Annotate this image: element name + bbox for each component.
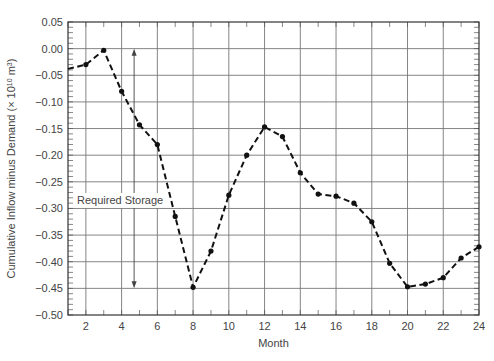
- data-point: [119, 89, 124, 94]
- y-tick-label: −0.05: [35, 69, 63, 81]
- y-tick-label: 0.05: [42, 16, 63, 28]
- y-tick-label: −0.10: [35, 96, 63, 108]
- y-tick-label: 0.00: [42, 43, 63, 55]
- data-point: [333, 194, 338, 199]
- x-tick-label: 24: [473, 320, 485, 332]
- x-tick-label: 22: [437, 320, 449, 332]
- data-point: [173, 214, 178, 219]
- x-tick-label: 10: [223, 320, 235, 332]
- data-point: [262, 124, 267, 129]
- data-point: [405, 284, 410, 289]
- y-tick-label: −0.45: [35, 282, 63, 294]
- x-tick-label: 12: [258, 320, 270, 332]
- data-point: [244, 153, 249, 158]
- x-tick-label: 14: [294, 320, 306, 332]
- y-tick-label: −0.25: [35, 176, 63, 188]
- x-axis-label: Month: [258, 337, 289, 349]
- data-point: [280, 134, 285, 139]
- data-point: [459, 255, 464, 260]
- data-series-line: [68, 50, 479, 287]
- y-tick-label: −0.30: [35, 202, 63, 214]
- data-point: [208, 248, 213, 253]
- minor-ticks: [68, 22, 479, 315]
- data-point: [83, 62, 88, 67]
- y-axis-label-main: Cumulative Inflow minus Demand (× 10: [5, 86, 17, 278]
- y-axis-label-sup: 10: [6, 78, 13, 86]
- plot-frame: [68, 22, 479, 315]
- data-point: [351, 201, 356, 206]
- arrow-down-icon: [132, 281, 137, 288]
- data-point: [476, 244, 481, 249]
- y-axis-label: Cumulative Inflow minus Demand (× 1010 m…: [5, 59, 17, 279]
- x-tick-label: 4: [119, 320, 125, 332]
- x-tick-label: 18: [366, 320, 378, 332]
- y-axis-tick-labels: 0.050.00−0.05−0.10−0.15−0.20−0.25−0.30−0…: [35, 16, 63, 321]
- x-tick-label: 16: [330, 320, 342, 332]
- x-tick-label: 2: [83, 320, 89, 332]
- y-tick-label: −0.50: [35, 309, 63, 321]
- data-point: [190, 285, 195, 290]
- data-point: [226, 193, 231, 198]
- data-point: [137, 122, 142, 127]
- x-tick-label: 6: [154, 320, 160, 332]
- data-point: [298, 170, 303, 175]
- x-axis-tick-labels: 24681012141618202224: [83, 320, 485, 332]
- arrow-up-icon: [132, 49, 137, 56]
- data-point: [387, 261, 392, 266]
- y-axis-label-unit: m: [5, 66, 17, 78]
- y-tick-label: −0.40: [35, 256, 63, 268]
- y-axis-label-close: ): [5, 59, 17, 63]
- y-tick-label: −0.20: [35, 149, 63, 161]
- storage-chart: 0.050.00−0.05−0.10−0.15−0.20−0.25−0.30−0…: [0, 0, 494, 361]
- data-point: [441, 275, 446, 280]
- data-point: [423, 282, 428, 287]
- y-tick-label: −0.15: [35, 123, 63, 135]
- grid-lines: [68, 22, 479, 315]
- data-point: [369, 219, 374, 224]
- data-point: [316, 191, 321, 196]
- x-tick-label: 8: [190, 320, 196, 332]
- required-storage-label: Required Storage: [77, 194, 163, 206]
- data-point-markers: [83, 48, 481, 290]
- data-point: [101, 48, 106, 53]
- x-tick-label: 20: [401, 320, 413, 332]
- y-tick-label: −0.35: [35, 229, 63, 241]
- data-point: [155, 142, 160, 147]
